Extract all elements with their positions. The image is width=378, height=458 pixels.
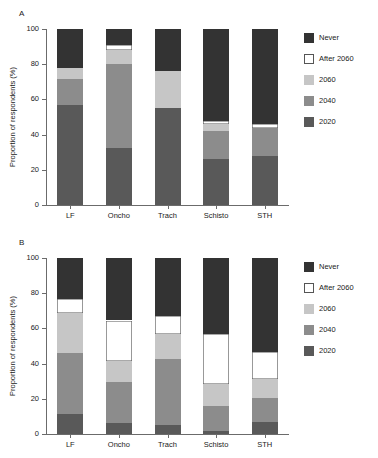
x-axis-label-sth: STH [240, 211, 289, 220]
legend-item-y2040[interactable]: 2040 [304, 90, 376, 111]
legend-item-y2060[interactable]: 2060 [304, 69, 376, 90]
bar-segment-oncho-never [106, 258, 132, 320]
x-axis-label-trach: Trach [143, 211, 192, 220]
panel-a-label: A [19, 9, 25, 18]
y-axis-tick-label: 80 [31, 288, 39, 297]
legend-swatch-y2040-icon [304, 325, 314, 335]
bar-segment-schisto-y2060 [203, 124, 229, 131]
y-axis-tick: 100 [42, 258, 46, 259]
bar-segment-schisto-y2040 [203, 406, 229, 432]
y-axis-tick: 100 [42, 29, 46, 30]
bar-segment-lf-never [57, 258, 83, 299]
panel-b-legend: NeverAfter 2060206020402020 [304, 256, 376, 361]
x-axis-label-schisto: Schisto [192, 440, 241, 449]
bar-lf [57, 258, 83, 434]
y-axis-tick: 0 [42, 205, 46, 206]
y-axis-tick-label: 0 [35, 200, 39, 209]
panel-b-label: B [19, 238, 25, 247]
legend-label-after: After 2060 [319, 283, 354, 292]
bar-segment-sth-y2020 [252, 156, 278, 205]
legend-label-never: Never [319, 33, 339, 42]
y-axis-tick-label: 0 [35, 429, 39, 438]
legend-swatch-y2060-icon [304, 304, 314, 314]
panel-b: B Proportion of respondents (%) 02040608… [0, 229, 378, 458]
y-axis-tick: 80 [42, 293, 46, 294]
legend-label-y2040: 2040 [319, 96, 336, 105]
legend-swatch-after-icon [304, 283, 314, 293]
bar-segment-schisto-y2020 [203, 159, 229, 205]
bar-segment-oncho-y2020 [106, 148, 132, 205]
bar-segment-trach-y2040 [155, 359, 181, 425]
y-axis-tick-label: 100 [26, 24, 39, 33]
legend-item-y2040[interactable]: 2040 [304, 319, 376, 340]
panel-a-y-axis-label: Proportion of respondents (%) [8, 29, 20, 205]
bar-segment-sth-y2040 [252, 398, 278, 422]
x-axis-label-trach: Trach [143, 440, 192, 449]
legend-label-never: Never [319, 262, 339, 271]
bar-oncho [106, 29, 132, 205]
x-axis-tick [168, 434, 169, 438]
bar-segment-oncho-y2040 [106, 64, 132, 148]
bar-segment-schisto-never [203, 29, 229, 121]
y-axis-tick-label: 80 [31, 59, 39, 68]
legend-item-y2060[interactable]: 2060 [304, 298, 376, 319]
bar-segment-sth-never [252, 258, 278, 352]
legend-swatch-after-icon [304, 54, 314, 64]
x-axis-tick [265, 205, 266, 209]
bar-segment-trach-never [155, 258, 181, 316]
legend-item-y2020[interactable]: 2020 [304, 340, 376, 361]
legend-item-y2020[interactable]: 2020 [304, 111, 376, 132]
x-axis-tick [265, 434, 266, 438]
bar-segment-lf-y2040 [57, 79, 83, 105]
legend-label-y2020: 2020 [319, 117, 336, 126]
panel-a-plot-area: 020406080100LFOnchoTrachSchistoSTH [46, 29, 289, 205]
legend-swatch-y2020-icon [304, 346, 314, 356]
y-axis-tick: 60 [42, 328, 46, 329]
legend-item-never[interactable]: Never [304, 256, 376, 277]
legend-item-after[interactable]: After 2060 [304, 48, 376, 69]
legend-swatch-y2020-icon [304, 117, 314, 127]
y-axis-tick-label: 40 [31, 359, 39, 368]
y-axis-tick: 40 [42, 135, 46, 136]
bar-segment-lf-y2020 [57, 105, 83, 205]
bar-segment-schisto-after [203, 121, 229, 125]
y-axis-tick: 40 [42, 364, 46, 365]
y-axis-tick: 20 [42, 399, 46, 400]
panel-a-y-axis [46, 29, 47, 205]
x-axis-label-lf: LF [46, 211, 95, 220]
x-axis-label-schisto: Schisto [192, 211, 241, 220]
bar-segment-oncho-after [106, 45, 132, 50]
x-axis-label-sth: STH [240, 440, 289, 449]
bar-segment-sth-y2060 [252, 379, 278, 397]
legend-swatch-y2040-icon [304, 96, 314, 106]
y-axis-tick-label: 20 [31, 394, 39, 403]
panel-a: A Proportion of respondents (%) 02040608… [0, 0, 378, 229]
bar-segment-lf-y2060 [57, 68, 83, 79]
bar-segment-trach-after [155, 316, 181, 334]
x-axis-label-lf: LF [46, 440, 95, 449]
bar-segment-lf-y2040 [57, 353, 83, 414]
bar-segment-schisto-y2060 [203, 384, 229, 406]
bar-segment-trach-y2020 [155, 108, 181, 205]
y-axis-tick: 60 [42, 99, 46, 100]
legend-item-never[interactable]: Never [304, 27, 376, 48]
y-axis-tick: 20 [42, 170, 46, 171]
bar-segment-lf-y2060 [57, 313, 83, 353]
figure-stacked-bar-charts: A Proportion of respondents (%) 02040608… [0, 0, 378, 458]
panel-b-y-axis [46, 258, 47, 434]
bar-segment-sth-never [252, 29, 278, 124]
bar-schisto [203, 258, 229, 434]
bar-segment-oncho-never [106, 29, 132, 45]
bar-segment-oncho-after [106, 321, 132, 361]
bar-segment-lf-y2020 [57, 414, 83, 434]
bar-segment-sth-after [252, 124, 278, 128]
y-axis-tick-label: 100 [26, 253, 39, 262]
x-axis-tick [119, 205, 120, 209]
legend-label-after: After 2060 [319, 54, 354, 63]
legend-label-y2060: 2060 [319, 75, 336, 84]
legend-item-after[interactable]: After 2060 [304, 277, 376, 298]
bar-trach [155, 258, 181, 434]
bar-segment-oncho-y2060 [106, 50, 132, 64]
bar-segment-trach-never [155, 29, 181, 71]
y-axis-tick: 0 [42, 434, 46, 435]
